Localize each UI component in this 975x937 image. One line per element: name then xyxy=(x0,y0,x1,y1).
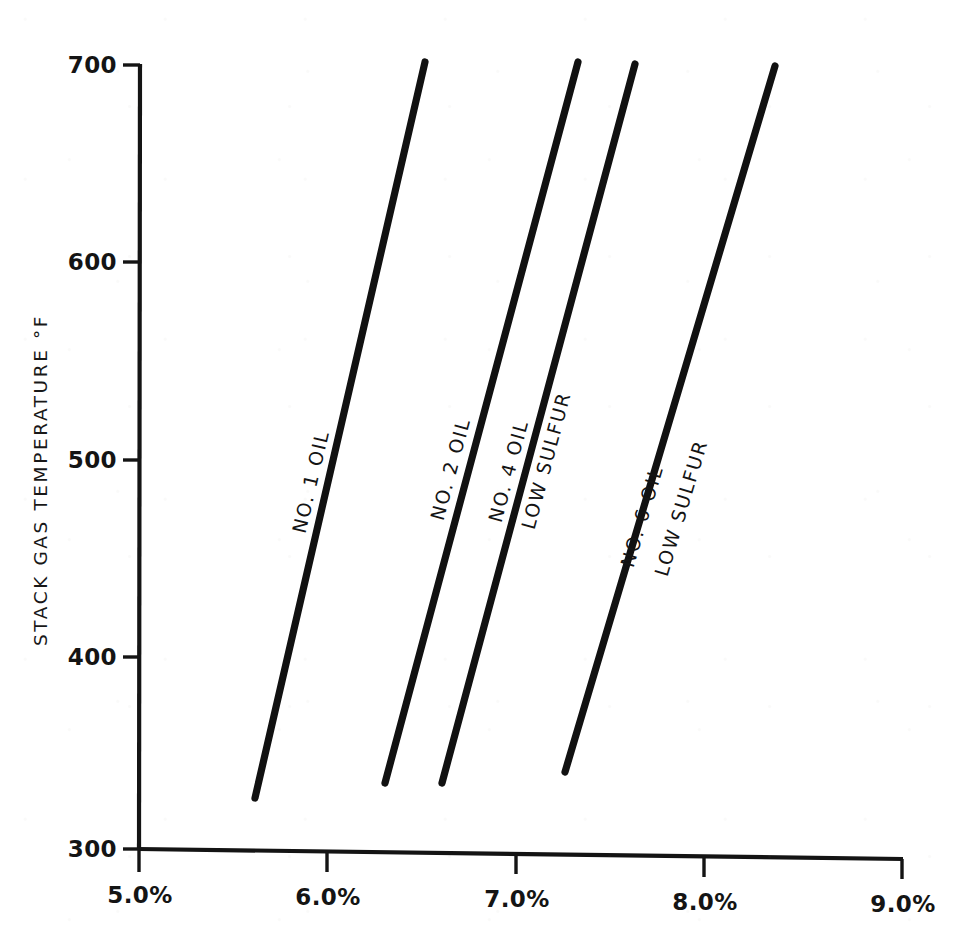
series-line-no-6-oil-low-sulfur xyxy=(565,66,775,772)
chart-canvas: 700 600 500 400 300 5.0% 6.0% 7.0% 8.0% … xyxy=(0,0,975,937)
y-tick-labels: 700 600 500 400 300 xyxy=(68,52,117,862)
series-line-no-1-oil xyxy=(255,62,425,798)
x-tick-label-9: 9.0% xyxy=(870,891,935,917)
x-tick-label-6: 6.0% xyxy=(295,884,360,910)
y-tick-label-500: 500 xyxy=(68,447,117,473)
y-axis-line xyxy=(139,64,140,849)
x-tick-labels: 5.0% 6.0% 7.0% 8.0% 9.0% xyxy=(107,882,935,917)
chart-figure: 700 600 500 400 300 5.0% 6.0% 7.0% 8.0% … xyxy=(0,0,975,937)
series-labels-group: NO. 1 OIL NO. 2 OIL NO. 4 OIL LOW SULFUR… xyxy=(288,389,712,578)
y-tick-label-400: 400 xyxy=(68,644,117,670)
y-tick-label-600: 600 xyxy=(68,249,117,275)
x-axis-line xyxy=(139,849,903,859)
y-tick-label-300: 300 xyxy=(68,836,117,862)
x-tick-label-5: 5.0% xyxy=(107,882,172,908)
y-axis-title: STACK GAS TEMPERATURE °F xyxy=(30,314,51,646)
x-tick-label-7: 7.0% xyxy=(484,886,549,912)
x-tick-label-8: 8.0% xyxy=(672,889,737,915)
y-tick-label-700: 700 xyxy=(68,52,117,78)
